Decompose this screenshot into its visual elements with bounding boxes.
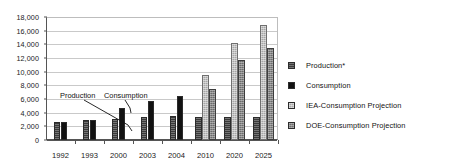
x-axis-tick-label: 1993 xyxy=(81,151,98,160)
x-axis-tick-label: 2000 xyxy=(110,151,127,160)
bar xyxy=(119,108,125,140)
y-axis-tick xyxy=(44,30,47,31)
y-axis-tick-label: 6,000 xyxy=(21,95,40,104)
x-axis-tick-label: 2010 xyxy=(197,151,214,160)
bar xyxy=(267,48,273,140)
y-axis-tick xyxy=(44,99,47,100)
legend-item[interactable]: Production* xyxy=(288,55,448,75)
bar xyxy=(253,117,259,140)
legend-item[interactable]: IEA-Consumption Projection xyxy=(288,95,448,115)
bar xyxy=(148,101,154,140)
bar xyxy=(177,96,183,140)
x-axis-tick-label: 2020 xyxy=(226,151,243,160)
bar xyxy=(195,117,201,140)
legend-swatch-icon xyxy=(288,82,295,89)
x-axis-labels: 19921993200020032004201020202025 xyxy=(46,144,278,160)
y-axis-tick-label: 0 xyxy=(35,136,39,145)
chart-figure: 18,00016,00014,00012,00010,0008,0006,000… xyxy=(0,0,451,167)
x-axis-tick-label: 1992 xyxy=(52,151,69,160)
bar xyxy=(61,122,67,140)
y-axis-tick-label: 10,000 xyxy=(16,67,39,76)
legend-swatch-icon xyxy=(288,62,295,69)
y-axis-tick-label: 18,000 xyxy=(16,13,39,22)
legend-swatch-icon xyxy=(288,102,295,109)
y-axis-tick-label: 4,000 xyxy=(21,108,40,117)
legend-item-label: Consumption xyxy=(306,81,351,90)
bar xyxy=(112,119,118,140)
chart-legend: Production*ConsumptionIEA-Consumption Pr… xyxy=(288,55,448,135)
y-axis-tick xyxy=(44,17,47,18)
y-axis-labels: 18,00016,00014,00012,00010,0008,0006,000… xyxy=(0,17,44,140)
y-axis-tick xyxy=(44,112,47,113)
bar xyxy=(170,116,176,140)
x-axis-tick-label: 2003 xyxy=(139,151,156,160)
legend-swatch-icon xyxy=(288,122,295,129)
legend-item-label: IEA-Consumption Projection xyxy=(306,101,401,110)
y-axis-tick-label: 14,000 xyxy=(16,40,39,49)
legend-item-label: DOE-Consumption Projection xyxy=(306,121,406,130)
y-axis-tick xyxy=(44,44,47,45)
annotation-production: Production xyxy=(60,91,95,100)
bar xyxy=(90,120,96,140)
x-axis-tick xyxy=(278,140,279,144)
bar-groups xyxy=(47,17,277,140)
bar xyxy=(202,75,208,140)
y-axis-tick xyxy=(44,85,47,86)
y-axis-tick-label: 16,000 xyxy=(16,26,39,35)
legend-item-label: Production* xyxy=(306,61,345,70)
y-axis-tick-label: 2,000 xyxy=(21,122,40,131)
bar xyxy=(260,25,266,140)
y-axis-tick xyxy=(44,71,47,72)
y-axis-tick-label: 12,000 xyxy=(16,54,39,63)
y-axis-tick xyxy=(44,58,47,59)
bar xyxy=(54,122,60,140)
bar xyxy=(141,117,147,140)
y-axis-tick xyxy=(44,126,47,127)
annotation-consumption: Consumption xyxy=(104,91,148,100)
x-axis-tick-label: 2025 xyxy=(255,151,272,160)
y-axis-tick-label: 8,000 xyxy=(21,81,40,90)
bar xyxy=(209,89,215,140)
legend-item[interactable]: DOE-Consumption Projection xyxy=(288,115,448,135)
bar xyxy=(224,117,230,140)
bar xyxy=(238,60,244,140)
bar xyxy=(83,120,89,140)
y-axis-tick xyxy=(44,140,47,141)
legend-item[interactable]: Consumption xyxy=(288,75,448,95)
bar xyxy=(231,43,237,140)
x-axis-tick-label: 2004 xyxy=(168,151,185,160)
